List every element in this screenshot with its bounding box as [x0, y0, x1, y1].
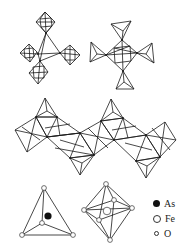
- octahedron-cluster: [90, 21, 154, 89]
- tetrahedron-cluster: [20, 12, 80, 84]
- legend-label-as: As: [164, 198, 175, 209]
- polyhedral-chain: [15, 98, 176, 178]
- legend-label-o: O: [164, 228, 171, 239]
- legend-item-o: O: [153, 226, 186, 241]
- small-open-circle-icon: [154, 231, 159, 236]
- legend-item-as: As: [153, 196, 186, 211]
- filled-circle-icon: [153, 200, 160, 207]
- as-atom: [44, 212, 51, 219]
- legend: As Fe O: [153, 196, 186, 241]
- feo6-octahedron-detail: [82, 182, 135, 243]
- open-circle-icon: [153, 215, 161, 223]
- legend-label-fe: Fe: [165, 213, 175, 224]
- legend-item-fe: Fe: [153, 211, 186, 226]
- aso4-tetrahedron-detail: [20, 186, 76, 238]
- fe-atom: [103, 207, 111, 215]
